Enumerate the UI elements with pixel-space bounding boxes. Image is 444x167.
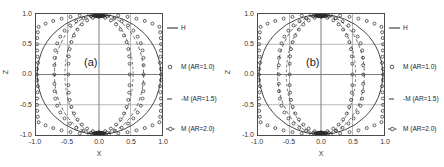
panel-label-a: (a) <box>84 56 97 68</box>
legend-label-h-b: H <box>403 23 408 33</box>
x-axis-ticks-a: -1.0 -0.5 0.0 0.5 1.0 <box>0 138 222 150</box>
panel-label-b: (b) <box>306 56 319 68</box>
y-tick-b-1: 0.5 <box>228 40 254 48</box>
y-tick-b-0: 1.0 <box>228 10 254 18</box>
plot-area-b <box>257 13 385 136</box>
y-axis-label-b: Z <box>222 67 234 77</box>
x-tick-a-2: 0.0 <box>84 138 114 146</box>
y-tick-a-1: 0.5 <box>6 40 32 48</box>
legend-item-ar15-a[interactable]: -M (AR=1.5) <box>166 93 217 105</box>
solid-line-icon <box>166 23 179 33</box>
y-tick-b-3: -0.5 <box>228 101 254 109</box>
x-tick-b-4: 1.0 <box>370 138 400 146</box>
plot-svg-a <box>36 14 162 135</box>
legend-label-ar15-b: -M (AR=1.5) <box>403 94 439 104</box>
x-axis-label-b: X <box>257 150 385 157</box>
legend-label-ar20-b: M (AR=2.0) <box>403 124 436 134</box>
legend-item-ar10-a[interactable]: M (AR=1.0) <box>166 61 214 73</box>
legend-label-ar20-a: M (AR=2.0) <box>181 124 214 134</box>
legend-b: H M (AR=1.0) -M (AR=1.5) <box>388 13 444 136</box>
x-tick-b-1: -0.5 <box>274 138 304 146</box>
solid-line-icon <box>388 23 401 33</box>
y-tick-a-0: 1.0 <box>6 10 32 18</box>
legend-label-h-a: H <box>181 23 186 33</box>
figure-two-panel-chart: 1.0 0.5 0.0 -0.5 -1.0 Z <box>0 0 444 167</box>
x-tick-b-0: -1.0 <box>242 138 272 146</box>
legend-item-ar20-a[interactable]: M (AR=2.0) <box>166 123 214 135</box>
legend-label-ar15-a: -M (AR=1.5) <box>181 94 217 104</box>
y-tick-a-3: -0.5 <box>6 101 32 109</box>
legend-item-h-b[interactable]: H <box>388 22 408 34</box>
circle-marker-icon <box>388 62 401 72</box>
y-axis-label-a: Z <box>0 67 12 77</box>
x-tick-a-4: 1.0 <box>148 138 178 146</box>
legend-item-ar20-b[interactable]: M (AR=2.0) <box>388 123 436 135</box>
x-tick-a-0: -1.0 <box>20 138 50 146</box>
legend-item-ar15-b[interactable]: -M (AR=1.5) <box>388 93 439 105</box>
x-tick-a-3: 0.5 <box>116 138 146 146</box>
x-axis-label-a: X <box>35 150 163 157</box>
x-axis-ticks-b: -1.0 -0.5 0.0 0.5 1.0 <box>222 138 444 150</box>
panel-b: 1.0 0.5 0.0 -0.5 -1.0 Z <box>222 0 444 167</box>
legend-a: H M (AR=1.0) -M (AR=1.5) <box>166 13 222 136</box>
legend-label-ar10-a: M (AR=1.0) <box>181 62 214 72</box>
legend-item-ar10-b[interactable]: M (AR=1.0) <box>388 61 436 73</box>
plot-area-a <box>35 13 163 136</box>
dash-circle-dash-icon <box>388 124 401 134</box>
plot-svg-b <box>258 14 384 135</box>
x-tick-a-1: -0.5 <box>52 138 82 146</box>
dash-circle-dash-icon <box>166 124 179 134</box>
x-tick-b-2: 0.0 <box>306 138 336 146</box>
circle-marker-icon <box>166 62 179 72</box>
legend-label-ar10-b: M (AR=1.0) <box>403 62 436 72</box>
dash-line-icon <box>166 94 179 104</box>
dash-line-icon <box>388 94 401 104</box>
x-tick-b-3: 0.5 <box>338 138 368 146</box>
legend-item-h-a[interactable]: H <box>166 22 186 34</box>
panel-a: 1.0 0.5 0.0 -0.5 -1.0 Z <box>0 0 222 167</box>
